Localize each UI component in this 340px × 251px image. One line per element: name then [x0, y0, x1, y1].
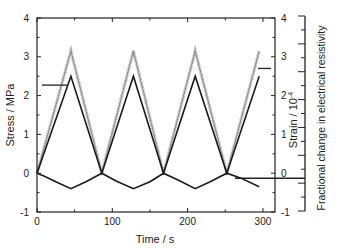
far-right-axis-ticks: [298, 16, 305, 211]
x-tick-label: 100: [104, 216, 121, 227]
plot-frame: [37, 18, 275, 212]
right-axis-title-exponent: -4: [287, 92, 294, 98]
stress-series-core: [37, 51, 259, 173]
y-tick-label-right: -1: [281, 207, 290, 218]
y-tick-label-left: 0: [23, 168, 29, 179]
right-axis-title-base: Strain / 10: [287, 98, 299, 148]
left-axis-ticks: -101234: [20, 13, 41, 218]
x-tick-label: 0: [34, 216, 40, 227]
left-axis-title: Stress / MPa: [4, 83, 16, 147]
x-tick-label: 300: [255, 216, 272, 227]
y-tick-label-left: 1: [23, 129, 29, 140]
y-tick-label-left: 3: [23, 51, 29, 62]
y-tick-label-right: 3: [281, 51, 287, 62]
resistivity-series: [37, 173, 259, 189]
x-tick-label: 200: [179, 216, 196, 227]
y-tick-label-right: 0: [281, 168, 287, 179]
strain-series: [37, 76, 259, 173]
far-right-axis-title: Fractional change in electrical resistiv…: [315, 25, 327, 211]
right-axis-title: Strain / 10-4: [287, 92, 299, 148]
y-tick-label-left: -1: [20, 207, 29, 218]
x-axis-title: Time / s: [136, 233, 175, 245]
y-tick-label-left: 4: [23, 13, 29, 24]
plot-lines: [37, 51, 259, 189]
y-tick-label-right: 4: [281, 13, 287, 24]
chart-canvas: 0100200300 -101234 -101234 Time / s Stre…: [0, 0, 340, 251]
axis-pointer-lines: [42, 68, 305, 178]
y-tick-label-left: 2: [23, 90, 29, 101]
